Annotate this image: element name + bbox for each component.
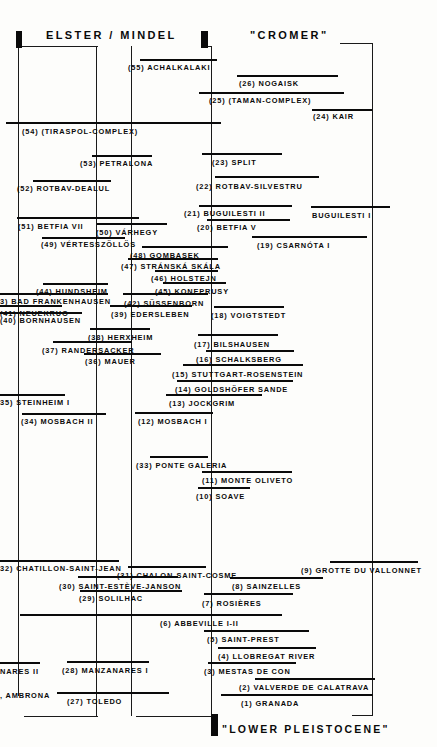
entry-label: (34) MOSBACH II <box>21 418 93 425</box>
entry-label: , AMBRONA <box>0 692 50 699</box>
entry-label: (3) MESTAS DE CON <box>204 668 291 675</box>
range-bar <box>255 678 375 680</box>
entry-label: (12) MOSBACH I <box>138 418 207 425</box>
range-bar <box>206 350 294 352</box>
entry-label: (16) SCHALKSBERG <box>196 356 282 363</box>
range-bar <box>199 92 344 94</box>
entry-label: (20) BETFIA V <box>197 224 257 231</box>
entry-label: (18) VOIGTSTEDT <box>211 312 286 319</box>
vertical-connector-line <box>18 46 19 696</box>
range-bar <box>230 577 323 579</box>
range-bar <box>53 341 132 343</box>
range-bar <box>204 593 293 595</box>
entry-label: (11) MONTE OLIVETO <box>202 477 293 484</box>
range-bar <box>22 413 106 415</box>
range-bar <box>183 364 303 366</box>
entry-label: (21) BUGUILESTI II <box>184 210 265 217</box>
horizontal-connector-line <box>18 46 98 47</box>
entry-label: (49) VÉRTESSZÖLLÖS <box>41 241 136 248</box>
range-bar <box>215 176 319 178</box>
range-bar <box>0 312 82 314</box>
range-bar <box>208 662 296 664</box>
range-bar <box>312 109 372 111</box>
range-bar <box>198 487 250 489</box>
range-bar <box>202 153 282 155</box>
range-bar <box>97 223 167 225</box>
range-bar <box>150 456 208 458</box>
horizontal-connector-line <box>136 716 214 717</box>
range-bar <box>67 661 149 663</box>
lower-pleistocene-marker <box>211 714 218 736</box>
entry-label: (6) ABBEVILLE I-II <box>160 620 239 627</box>
entry-label: BUGUILESTI I <box>312 212 371 219</box>
range-bar <box>155 270 218 272</box>
entry-label: (26) NOGAISK <box>239 80 299 87</box>
range-bar <box>84 353 161 355</box>
range-bar <box>202 471 292 473</box>
range-bar <box>163 282 226 284</box>
range-bar <box>128 258 218 260</box>
entry-label: (13) JOCKGRIM <box>169 400 235 407</box>
range-bar <box>0 560 119 562</box>
range-bar <box>17 217 139 219</box>
range-bar <box>207 219 290 221</box>
entry-label: (14) GOLDSHÖFER SANDE <box>175 386 288 393</box>
range-bar <box>128 566 206 568</box>
range-bar <box>142 246 228 248</box>
entry-label: (10) SOAVE <box>196 493 245 500</box>
entry-label: (4) LLOBREGAT RIVER <box>218 653 315 660</box>
horizontal-connector-line <box>340 43 373 44</box>
range-bar <box>42 237 125 239</box>
horizontal-connector-line <box>24 716 98 717</box>
entry-label: (28) MANZANARES I <box>62 667 148 674</box>
range-bar <box>221 694 373 696</box>
entry-label: (17) BILSHAUSEN <box>194 341 270 348</box>
elster-marker-right <box>201 31 208 48</box>
range-bar <box>204 630 309 632</box>
range-bar <box>80 590 182 592</box>
stratigraphic-correlation-chart: ELSTER / MINDEL"CROMER"(55) ACHALKALAKI(… <box>0 0 437 747</box>
entry-label: (54) (TIRASPOL-COMPLEX) <box>22 128 138 135</box>
range-bar <box>330 561 418 563</box>
range-bar <box>123 293 208 295</box>
chart-header-title: "CROMER" <box>250 29 329 41</box>
range-bar <box>6 122 221 124</box>
entry-label: (27) TOLEDO <box>67 698 122 705</box>
vertical-connector-line <box>372 43 373 715</box>
horizontal-connector-line <box>352 715 373 716</box>
range-bar <box>43 283 108 285</box>
entry-label: (39) EDERSLEBEN <box>111 311 189 318</box>
range-bar <box>140 59 217 61</box>
range-bar <box>0 662 40 664</box>
entry-label: (25) (TAMAN-COMPLEX) <box>209 97 311 104</box>
entry-label: NARES II <box>0 668 39 675</box>
entry-label: (9) GROTTE DU VALLONNET <box>301 567 422 574</box>
range-bar <box>0 394 65 396</box>
entry-label: (55) ACHALKALAKI <box>128 64 210 71</box>
entry-label: (1) GRANADA <box>241 700 299 707</box>
range-bar <box>33 180 111 182</box>
entry-label: (15) STUTTGART-ROSENSTEIN <box>172 371 303 378</box>
entry-label: 35) STEINHEIM I <box>0 399 70 406</box>
chart-header-title: ELSTER / MINDEL <box>46 29 177 41</box>
entry-label: (33) PONTE GALERIA <box>136 462 227 469</box>
entry-label: (40) BORNHAUSEN <box>0 317 81 324</box>
range-bar <box>57 692 169 694</box>
entry-label: (2) VALVERDE DE CALATRAVA <box>239 684 369 691</box>
range-bar <box>110 305 192 307</box>
entry-label: (53) PETRALONA <box>80 160 153 167</box>
entry-label: (29) SOLILHAC <box>79 595 143 602</box>
entry-label: (24) KAIR <box>313 113 354 120</box>
entry-label: (5) SAINT-PREST <box>207 636 280 643</box>
range-bar <box>214 306 284 308</box>
range-bar <box>198 334 278 336</box>
footer-caption: "LOWER PLEISTOCENE" <box>222 723 390 735</box>
elster-marker-left <box>16 31 22 48</box>
range-bar <box>218 647 316 649</box>
entry-label: (52) ROTBAV-DEALUL <box>17 185 110 192</box>
range-bar <box>90 328 150 330</box>
range-bar <box>20 614 282 616</box>
range-bar <box>199 205 292 207</box>
entry-label: (22) ROTBAV-SILVESTRU <box>196 183 303 190</box>
range-bar <box>237 75 338 77</box>
